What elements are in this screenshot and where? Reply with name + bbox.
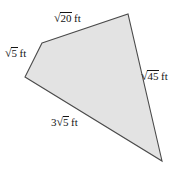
radicand-right: 45	[147, 70, 159, 83]
side-label-top: √20ft	[54, 12, 81, 25]
unit-label-right: ft	[161, 71, 168, 82]
radicand-bottom: 5	[63, 116, 70, 129]
side-label-bottom: 3√5ft	[51, 116, 78, 129]
radicand-left: 5	[11, 47, 18, 60]
unit-label-left: ft	[20, 48, 27, 59]
quadrilateral-polygon	[25, 14, 162, 161]
radicand-top: 20	[60, 12, 72, 25]
radical-expression-bottom: √5	[57, 116, 70, 129]
unit-label-top: ft	[74, 13, 81, 24]
quadrilateral-shape	[0, 0, 174, 173]
radical-expression-left: √5	[5, 47, 18, 60]
unit-label-bottom: ft	[71, 117, 78, 128]
radical-expression-top: √20	[54, 12, 72, 25]
geometry-figure: √20ft √5ft √45ft 3√5ft	[0, 0, 174, 173]
side-label-right: √45ft	[141, 70, 168, 83]
radical-expression-right: √45	[141, 70, 159, 83]
side-label-left: √5ft	[5, 47, 26, 60]
